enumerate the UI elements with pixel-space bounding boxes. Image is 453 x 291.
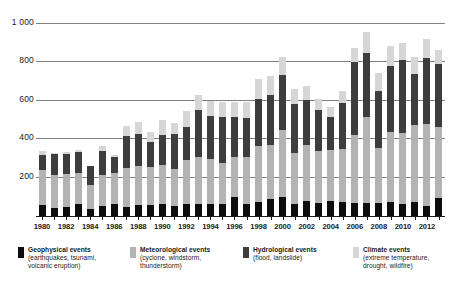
x-tick bbox=[126, 216, 127, 220]
y-tick-label: 200 bbox=[0, 172, 34, 181]
bar-column[interactable] bbox=[207, 101, 214, 216]
bar-column[interactable] bbox=[327, 107, 334, 216]
bar-column[interactable] bbox=[267, 76, 274, 216]
x-tick bbox=[247, 216, 248, 220]
bar-segment bbox=[399, 60, 406, 134]
bar-column[interactable] bbox=[159, 120, 166, 216]
bar-column[interactable] bbox=[423, 39, 430, 216]
bar-column[interactable] bbox=[387, 46, 394, 216]
bar-segment bbox=[411, 74, 418, 126]
bar-segment bbox=[219, 117, 226, 163]
legend-label: Hydrological events bbox=[253, 246, 317, 254]
bar-column[interactable] bbox=[315, 99, 322, 216]
bar-segment bbox=[207, 116, 214, 159]
bar-column[interactable] bbox=[411, 57, 418, 216]
bar-segment bbox=[327, 107, 334, 117]
bar-segment bbox=[99, 175, 106, 206]
x-tick bbox=[367, 216, 368, 220]
legend-item[interactable]: Climate events(extreme temperature, drou… bbox=[353, 246, 429, 271]
bar-column[interactable] bbox=[63, 152, 70, 216]
x-tick bbox=[355, 216, 356, 220]
y-axis: 2004006008001 000 bbox=[0, 0, 34, 216]
bar-column[interactable] bbox=[255, 79, 262, 216]
bar-column[interactable] bbox=[291, 89, 298, 216]
legend-text: Hydrological events(flood, landslide) bbox=[253, 246, 317, 262]
bar-segment bbox=[327, 117, 334, 150]
y-tick-label: 400 bbox=[0, 133, 34, 142]
bar-segment bbox=[123, 126, 130, 136]
legend-item[interactable]: Geophysical events(earthquakes, tsunami,… bbox=[18, 246, 96, 271]
bar-column[interactable] bbox=[231, 102, 238, 216]
bar-column[interactable] bbox=[183, 111, 190, 216]
bar-segment bbox=[87, 166, 94, 185]
bar-segment bbox=[351, 135, 358, 203]
bar-column[interactable] bbox=[243, 102, 250, 216]
bar-column[interactable] bbox=[87, 166, 94, 216]
bar-segment bbox=[147, 205, 154, 216]
bar-segment bbox=[375, 91, 382, 148]
bar-segment bbox=[351, 62, 358, 135]
bar-column[interactable] bbox=[39, 151, 46, 216]
bar-segment bbox=[147, 142, 154, 167]
bar-segment bbox=[279, 130, 286, 197]
x-tick bbox=[307, 216, 308, 220]
bar-segment bbox=[243, 204, 250, 216]
bar-segment bbox=[435, 64, 442, 127]
bar-segment bbox=[171, 206, 178, 216]
bar-segment bbox=[231, 102, 238, 116]
x-tick bbox=[379, 216, 380, 220]
bar-segment bbox=[39, 205, 46, 216]
bar-segment bbox=[387, 46, 394, 66]
bar-segment bbox=[315, 99, 322, 111]
x-tick bbox=[54, 216, 55, 220]
bar-segment bbox=[87, 209, 94, 216]
bar-column[interactable] bbox=[195, 95, 202, 216]
x-tick-label: 1982 bbox=[53, 222, 79, 231]
bar-column[interactable] bbox=[279, 57, 286, 216]
legend-sublabel: (cyclone, windstorm, thunderstorm) bbox=[140, 254, 210, 270]
bar-segment bbox=[75, 173, 82, 203]
bar-column[interactable] bbox=[303, 86, 310, 216]
legend-swatch-icon bbox=[130, 247, 136, 258]
x-tick bbox=[162, 216, 163, 220]
bar-column[interactable] bbox=[147, 132, 154, 216]
bar-column[interactable] bbox=[363, 32, 370, 216]
bar-column[interactable] bbox=[375, 73, 382, 216]
bar-segment bbox=[123, 136, 130, 168]
bar-column[interactable] bbox=[339, 91, 346, 216]
legend-swatch-icon bbox=[243, 247, 249, 258]
bar-column[interactable] bbox=[351, 48, 358, 216]
bar-segment bbox=[399, 204, 406, 216]
bar-series-layer bbox=[36, 0, 445, 216]
bar-column[interactable] bbox=[135, 122, 142, 216]
bar-segment bbox=[435, 198, 442, 216]
x-tick bbox=[102, 216, 103, 220]
bar-segment bbox=[363, 32, 370, 53]
bar-segment bbox=[75, 204, 82, 216]
x-tick bbox=[259, 216, 260, 220]
bar-segment bbox=[387, 132, 394, 201]
legend-item[interactable]: Meteorological events(cyclone, windstorm… bbox=[130, 246, 210, 271]
bar-segment bbox=[363, 53, 370, 117]
bar-segment bbox=[231, 197, 238, 216]
bar-column[interactable] bbox=[111, 155, 118, 216]
bar-segment bbox=[255, 146, 262, 203]
legend-item[interactable]: Hydrological events(flood, landslide) bbox=[243, 246, 317, 262]
bar-segment bbox=[63, 154, 70, 174]
bar-segment bbox=[207, 101, 214, 117]
bar-column[interactable] bbox=[435, 50, 442, 216]
bar-column[interactable] bbox=[123, 126, 130, 216]
bar-segment bbox=[327, 201, 334, 216]
bar-column[interactable] bbox=[219, 102, 226, 216]
x-tick-label: 1998 bbox=[246, 222, 272, 231]
bar-segment bbox=[387, 66, 394, 132]
bar-column[interactable] bbox=[51, 153, 58, 216]
bar-column[interactable] bbox=[399, 43, 406, 216]
bar-column[interactable] bbox=[99, 146, 106, 216]
bar-segment bbox=[267, 95, 274, 145]
bar-segment bbox=[51, 154, 58, 175]
bar-segment bbox=[147, 167, 154, 205]
bar-column[interactable] bbox=[171, 123, 178, 216]
x-tick bbox=[295, 216, 296, 220]
bar-column[interactable] bbox=[75, 150, 82, 216]
